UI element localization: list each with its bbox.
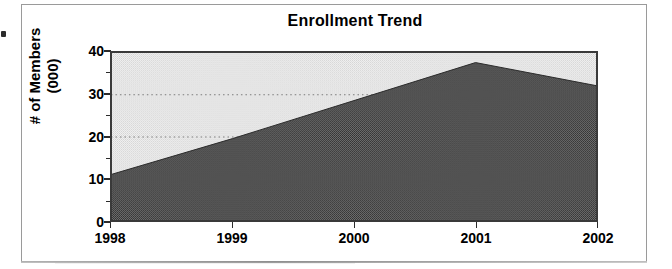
enrollment-trend-chart: Enrollment Trend # of Members (000) 0102… xyxy=(0,0,672,269)
area-plot xyxy=(111,52,597,221)
y-tick-label: 30 xyxy=(70,87,104,101)
x-tick-mark xyxy=(110,222,111,228)
x-axis-tick-labels: 19981999200020012002 xyxy=(0,231,672,253)
y-axis-tick-labels: 010203040 xyxy=(68,0,104,269)
y-tick-label: 0 xyxy=(70,215,104,229)
y-tick-label: 10 xyxy=(70,172,104,186)
y-axis-title-line2: (000) xyxy=(44,0,61,161)
y-tick-label: 40 xyxy=(70,44,104,58)
x-tick-mark xyxy=(232,222,233,228)
x-tick-mark xyxy=(354,222,355,228)
y-axis-title: # of Members (000) xyxy=(35,0,63,161)
x-tick-label: 2000 xyxy=(314,231,394,245)
x-tick-label: 2001 xyxy=(436,231,516,245)
x-tick-label: 1998 xyxy=(70,231,150,245)
x-tick-mark xyxy=(476,222,477,228)
chart-title: Enrollment Trend xyxy=(110,12,600,30)
x-tick-mark xyxy=(597,222,598,228)
y-tick-label: 20 xyxy=(70,130,104,144)
x-tick-label: 2002 xyxy=(558,231,638,245)
x-axis-ticks xyxy=(110,222,598,228)
plot-area xyxy=(110,51,598,222)
x-tick-label: 1999 xyxy=(192,231,272,245)
y-axis-title-line1: # of Members xyxy=(26,0,43,161)
